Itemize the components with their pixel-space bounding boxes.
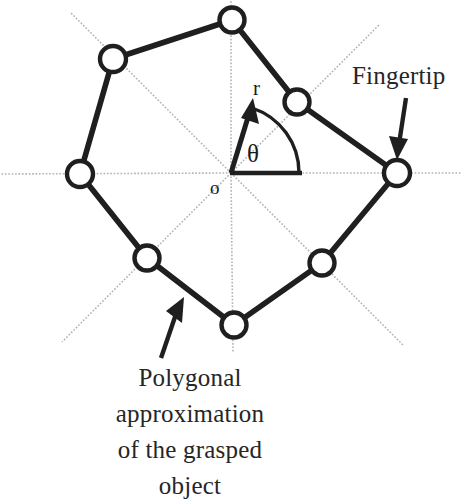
caption-line-4: object xyxy=(0,468,380,503)
caption-line-2: approximation xyxy=(0,396,380,432)
vertex-upper-right-icon[interactable] xyxy=(285,90,310,115)
vertex-top-icon[interactable] xyxy=(220,8,245,33)
ray-180deg-icon xyxy=(0,173,231,174)
fingertip-arrow-shaft xyxy=(399,98,406,144)
caption-line-1: Polygonal xyxy=(0,360,380,396)
fingertip-arrow-head xyxy=(389,136,408,160)
vertex-left-icon[interactable] xyxy=(67,161,93,187)
origin-label: o xyxy=(210,177,220,199)
vertex-upper-left-icon[interactable] xyxy=(100,46,126,72)
vertex-lower-left-icon[interactable] xyxy=(135,246,160,271)
theta-angle-label: θ xyxy=(247,140,259,168)
ray-135deg-icon xyxy=(70,12,231,173)
vertex-lower-right-icon[interactable] xyxy=(310,251,335,276)
caption-line-3: of the grasped xyxy=(0,432,380,468)
radius-axis-label: r xyxy=(253,76,260,101)
vertex-bottom-icon[interactable] xyxy=(222,313,247,338)
theta-arc-icon xyxy=(252,108,299,173)
polygonal-approximation-caption: Polygonal approximation of the grasped o… xyxy=(0,360,380,503)
fingertip-annotation-label: Fingertip xyxy=(352,62,445,90)
polygon-arrow-shaft xyxy=(161,314,176,358)
vertex-right-icon[interactable] xyxy=(384,160,410,186)
polygon-callout-arrow xyxy=(161,297,184,358)
fingertip-callout-arrow xyxy=(389,98,408,160)
